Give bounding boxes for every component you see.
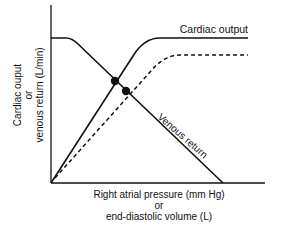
venous-return-curve	[51, 38, 223, 183]
x-axis-label-line-2: or	[155, 200, 165, 211]
x-axis-label-line-3: end-diastolic volume (L)	[106, 211, 212, 222]
y-axis-label-line-2: or	[23, 90, 34, 100]
cardiac-output-dashed-curve	[55, 55, 248, 178]
cardiac-output-label: Cardiac output	[180, 23, 248, 35]
equilibrium-point-2	[122, 87, 130, 95]
cardiac-venous-diagram: Cardiac output Venous return Cardiac oup…	[0, 0, 281, 230]
x-axis-label-line-1: Right atrial pressure (mm Hg)	[93, 189, 224, 200]
y-axis-label-line-1: Cardiac ouput	[12, 64, 23, 126]
equilibrium-point-1	[111, 77, 119, 85]
venous-return-label: Venous return	[156, 111, 210, 160]
y-axis-label-line-3: venous return (L/min)	[34, 47, 45, 142]
cardiac-output-curve	[51, 38, 248, 183]
